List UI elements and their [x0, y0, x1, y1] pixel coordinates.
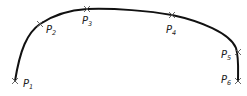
point-label-p1: P1 — [23, 78, 33, 91]
point-label-p6: P6 — [221, 74, 231, 87]
point-labels: P1P2P3P4P5P6 — [23, 15, 231, 91]
point-label-p3: P3 — [82, 15, 92, 28]
point-label-p4: P4 — [166, 24, 176, 37]
cross-marker-icon — [37, 21, 43, 27]
spline-diagram: P1P2P3P4P5P6 — [0, 0, 247, 96]
point-markers — [12, 6, 241, 84]
spline-curve — [15, 9, 238, 81]
point-label-p2: P2 — [46, 24, 56, 37]
point-label-p5: P5 — [221, 49, 231, 62]
